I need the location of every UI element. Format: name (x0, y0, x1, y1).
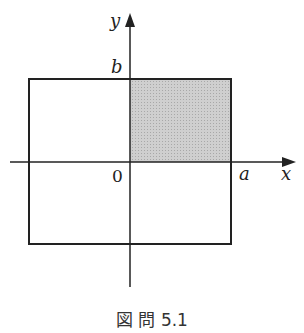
a-label: a (239, 163, 250, 184)
origin-label: 0 (112, 166, 123, 186)
x-axis-label: x (281, 163, 291, 184)
label-layer: y b 0 a x (0, 0, 304, 333)
b-label: b (111, 56, 123, 77)
figure-caption: 図 問 5.1 (0, 306, 304, 331)
y-axis-label: y (109, 10, 121, 31)
